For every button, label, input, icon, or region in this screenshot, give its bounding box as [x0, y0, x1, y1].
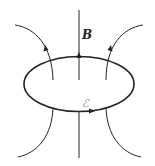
loop-direction-arrow-icon	[89, 109, 95, 114]
diagram-canvas	[0, 0, 155, 166]
right-field-line-upper	[106, 25, 143, 80]
emf-label: ℰ	[82, 97, 89, 110]
right-field-line-lower	[106, 108, 141, 157]
magnetic-field-label: B	[82, 28, 92, 42]
left-field-line-upper	[15, 25, 53, 80]
right-field-arrow-icon	[108, 45, 113, 52]
center-field-arrow-icon	[77, 52, 82, 58]
left-field-line-lower	[18, 108, 53, 157]
